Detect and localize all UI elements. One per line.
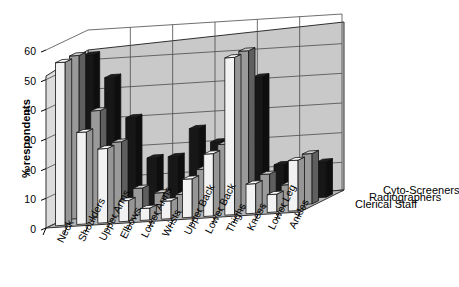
bar	[56, 59, 72, 226]
y-tick-label: 60	[14, 45, 36, 57]
legend-item-cyto-screeners: Cyto-Screeners	[383, 184, 459, 196]
y-axis-label: % respondents	[20, 99, 32, 178]
y-tick-label: 10	[14, 193, 36, 205]
y-tick-label: 50	[14, 75, 36, 87]
y-tick-label: 0	[14, 223, 36, 235]
